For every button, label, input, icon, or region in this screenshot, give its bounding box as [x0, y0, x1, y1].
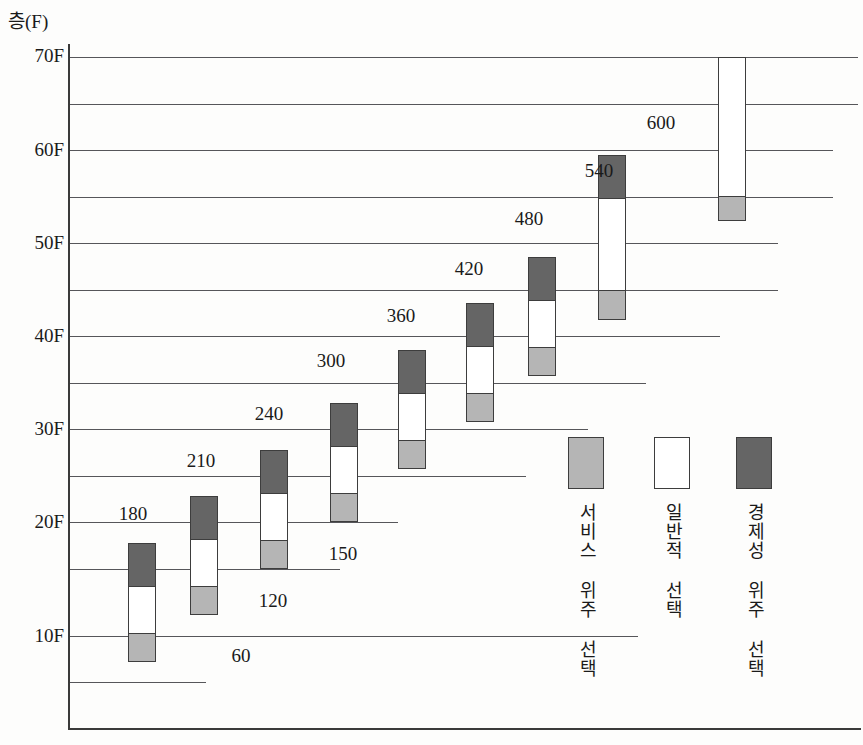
bar-300[interactable] [528, 257, 556, 376]
gridline-51f [68, 243, 778, 244]
legend-label-service: 서비스 위주 선택 [577, 503, 595, 678]
legend: 서비스 위주 선택 일반적 선택 경제성 위주 선택 [568, 437, 808, 687]
bar-300-general-segment [528, 300, 556, 348]
bar-120-economy-segment [190, 496, 218, 540]
bar-180-general-segment [330, 446, 358, 494]
value-label-60: 60 [216, 645, 266, 667]
bar-150-service-segment [260, 540, 288, 569]
y-axis-line [68, 44, 70, 730]
bar-210-general-segment [398, 393, 426, 441]
bar-240-service-segment [466, 393, 494, 422]
bar-60-economy-segment [128, 543, 156, 587]
bar-600-general-segment [718, 57, 746, 197]
value-label-300: 300 [302, 350, 360, 372]
bar-150-general-segment [260, 493, 288, 541]
bar-360-service-segment [598, 290, 626, 320]
bar-600-service-segment [718, 196, 746, 221]
legend-item-general[interactable]: 일반적 선택 [654, 437, 690, 623]
gridline-46f [68, 290, 778, 291]
value-label-480: 480 [500, 208, 558, 230]
bar-360-general-segment [598, 198, 626, 291]
value-label-120: 120 [244, 590, 302, 612]
y-tick-60f: 60F [6, 139, 64, 161]
value-label-420: 420 [440, 258, 498, 280]
gridline-41f [68, 336, 720, 337]
elevator-zoning-chart: 층(F) 70F 60F 50F 40F 30F 20F 10F [0, 0, 863, 745]
y-tick-70f: 70F [6, 45, 64, 67]
bar-240-general-segment [466, 346, 494, 394]
y-axis-title: 층(F) [8, 6, 48, 33]
y-tick-10f: 10F [6, 625, 64, 647]
y-tick-50f: 50F [6, 232, 64, 254]
gridline-31f [68, 429, 588, 430]
bar-240-economy-segment [466, 303, 494, 347]
gridline-26f [68, 476, 526, 477]
legend-item-service[interactable]: 서비스 위주 선택 [568, 437, 604, 682]
bar-210-economy-segment [398, 350, 426, 394]
bar-210[interactable] [398, 350, 426, 469]
bar-120[interactable] [190, 496, 218, 615]
bar-150-economy-segment [260, 450, 288, 494]
y-tick-20f: 20F [6, 511, 64, 533]
legend-swatch-general [654, 437, 690, 489]
gridline-36f [68, 383, 646, 384]
y-tick-30f: 30F [6, 418, 64, 440]
bar-180-economy-segment [330, 403, 358, 447]
value-label-360: 360 [372, 305, 430, 327]
value-label-600: 600 [632, 112, 690, 134]
bar-300-economy-segment [528, 257, 556, 301]
legend-label-general: 일반적 선택 [663, 503, 681, 619]
bar-240[interactable] [466, 303, 494, 422]
bar-150[interactable] [260, 450, 288, 569]
bar-180[interactable] [330, 403, 358, 522]
legend-swatch-economy [736, 437, 772, 489]
bar-180-service-segment [330, 493, 358, 522]
legend-item-economy[interactable]: 경제성 위주 선택 [736, 437, 772, 682]
y-tick-40f: 40F [6, 325, 64, 347]
value-label-540: 540 [570, 160, 628, 182]
x-axis-line [68, 728, 861, 730]
bar-60-service-segment [128, 633, 156, 662]
bar-300-service-segment [528, 347, 556, 376]
legend-swatch-service [568, 437, 604, 489]
value-label-240: 240 [240, 403, 298, 425]
bar-60-general-segment [128, 586, 156, 634]
bar-120-service-segment [190, 586, 218, 615]
bar-120-general-segment [190, 539, 218, 587]
value-label-210: 210 [172, 450, 230, 472]
bar-60[interactable] [128, 543, 156, 662]
bar-600[interactable] [718, 57, 746, 221]
legend-label-economy: 경제성 위주 선택 [745, 503, 763, 678]
gridline-6f [68, 682, 206, 683]
value-label-180: 180 [104, 503, 162, 525]
bar-210-service-segment [398, 440, 426, 469]
value-label-150: 150 [314, 543, 372, 565]
